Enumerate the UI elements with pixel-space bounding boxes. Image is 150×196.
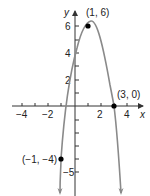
point-label-zero: (3, 0) <box>117 89 140 100</box>
y-tick-label: 6 <box>65 21 71 32</box>
y-tick-label: 4 <box>65 48 71 59</box>
x-tick-label: 4 <box>124 109 130 120</box>
point-zero <box>111 103 116 108</box>
x-axis-label: x <box>139 109 146 120</box>
x-tick-label: 2 <box>97 109 103 120</box>
y-axis-label: y <box>63 7 70 18</box>
point-label-vertex: (1, 6) <box>86 7 109 18</box>
point-vertex <box>85 23 90 28</box>
x-tick-label: −4 <box>16 109 28 120</box>
y-tick-label: −5 <box>63 167 75 178</box>
x-tick-label: −2 <box>42 109 54 120</box>
point-left <box>58 156 63 161</box>
function-graph: −4 −2 2 4 x 6 4 2 −5 y (1, 6) (3, 0) (−1… <box>0 0 150 196</box>
point-label-left: (−1, −4) <box>22 154 57 165</box>
